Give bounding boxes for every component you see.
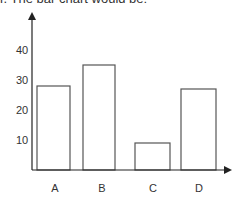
bar-b — [83, 65, 115, 170]
x-category-labels: ABCD — [51, 182, 203, 194]
x-label-a: A — [51, 182, 59, 194]
bar-a — [37, 86, 70, 170]
y-tick-20: 20 — [16, 104, 28, 116]
x-label-c: C — [149, 182, 157, 194]
bar-chart: 10203040 ABCD — [0, 0, 241, 201]
y-tick-40: 40 — [16, 44, 28, 56]
x-label-b: B — [98, 182, 105, 194]
y-tick-labels: 10203040 — [16, 44, 28, 146]
y-tick-10: 10 — [16, 134, 28, 146]
bar-d — [181, 89, 216, 170]
bars-group — [37, 65, 216, 170]
y-tick-30: 30 — [16, 74, 28, 86]
bar-c — [135, 143, 170, 170]
x-label-d: D — [195, 182, 203, 194]
